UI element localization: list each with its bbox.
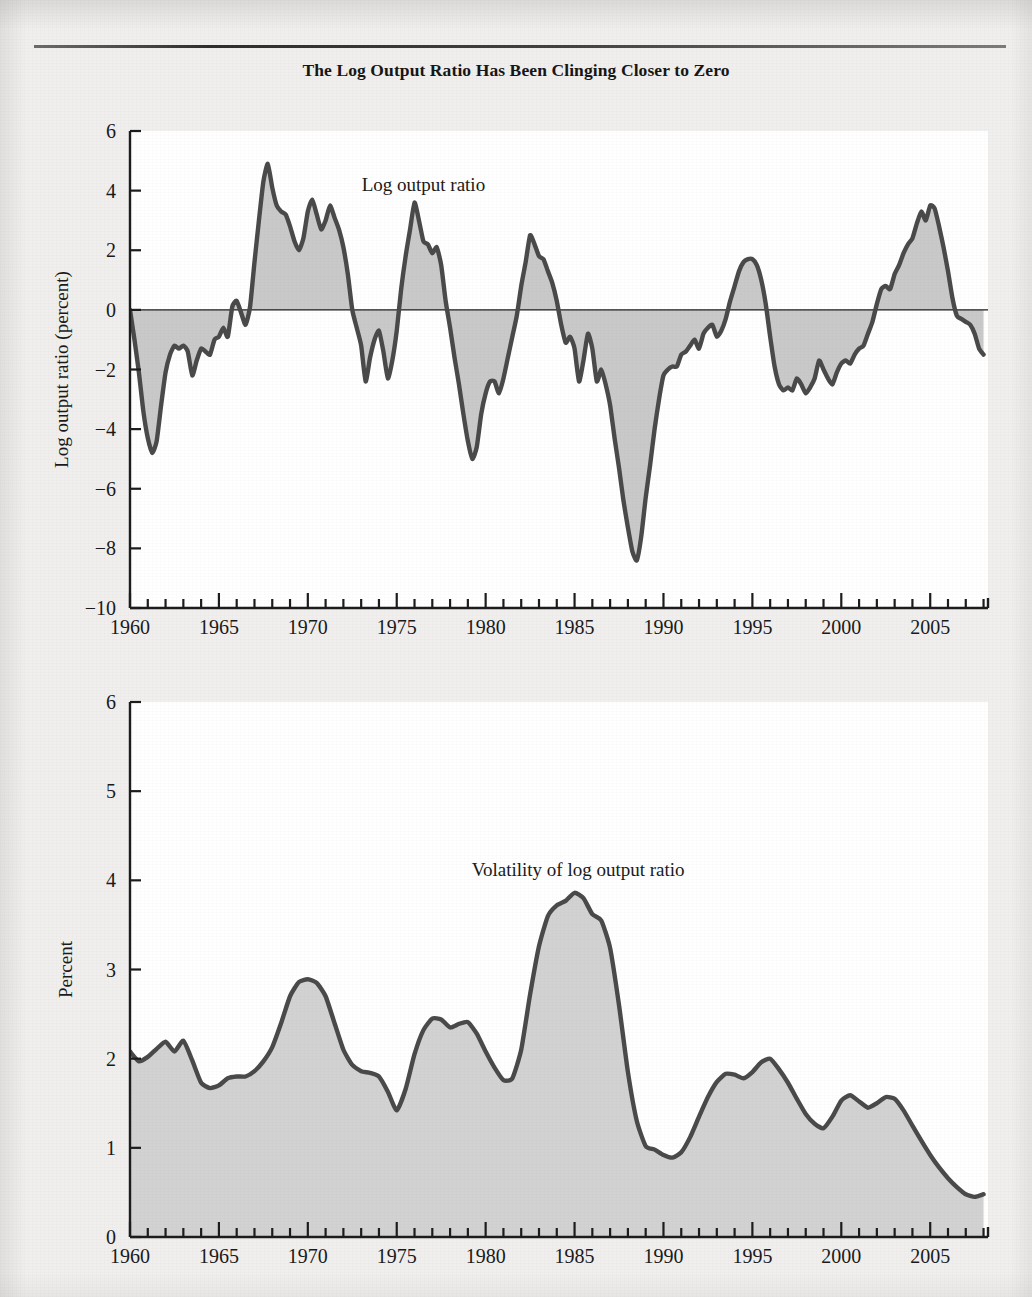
x-axis-tick-label: 2000	[821, 1245, 861, 1267]
y-axis-tick-label: 2	[106, 239, 116, 261]
x-axis-tick-label: 1960	[110, 616, 150, 638]
x-axis-tick-label: 1980	[466, 616, 506, 638]
header-rule	[34, 45, 1006, 48]
log-output-ratio-chart: −10−8−6−4−202461960196519701975198019851…	[0, 95, 1032, 640]
y-axis-tick-label: −2	[95, 359, 116, 381]
x-axis-tick-label: 1990	[643, 616, 683, 638]
x-axis-tick-label: 1965	[199, 1245, 239, 1267]
y-axis-tick-label: 6	[106, 120, 116, 142]
x-axis-tick-label: 1995	[732, 1245, 772, 1267]
y-axis-tick-label: 3	[106, 959, 116, 981]
x-axis-tick-label: 1975	[377, 1245, 417, 1267]
series-annotation-label: Log output ratio	[362, 174, 485, 195]
y-axis-tick-label: 6	[106, 691, 116, 713]
x-axis-tick-label: 1970	[288, 616, 328, 638]
x-axis-tick-label: 1975	[377, 616, 417, 638]
y-axis-tick-label: 4	[106, 869, 116, 891]
x-axis-tick-label: 2005	[910, 1245, 950, 1267]
page-title: The Log Output Ratio Has Been Clinging C…	[0, 60, 1032, 81]
y-axis-tick-label: 1	[106, 1137, 116, 1159]
y-axis-tick-label: 0	[106, 299, 116, 321]
x-axis-tick-label: 1985	[555, 1245, 595, 1267]
y-axis-tick-label: −4	[95, 418, 116, 440]
x-axis-tick-label: 1990	[643, 1245, 683, 1267]
y-axis-tick-label: −6	[95, 478, 116, 500]
volatility-chart: 0123456196019651970197519801985199019952…	[0, 668, 1032, 1288]
y-axis-title: Percent	[55, 940, 76, 998]
x-axis-tick-label: 1995	[732, 616, 772, 638]
y-axis-tick-label: −8	[95, 537, 116, 559]
x-axis-tick-label: 2000	[821, 616, 861, 638]
x-axis-tick-label: 1965	[199, 616, 239, 638]
x-axis-tick-label: 1980	[466, 1245, 506, 1267]
y-axis-tick-label: 2	[106, 1048, 116, 1070]
x-axis-tick-label: 2005	[910, 616, 950, 638]
y-axis-tick-label: 5	[106, 780, 116, 802]
x-axis-tick-label: 1960	[110, 1245, 150, 1267]
x-axis-tick-label: 1985	[555, 616, 595, 638]
y-axis-title: Log output ratio (percent)	[51, 271, 73, 468]
y-axis-tick-label: 4	[106, 180, 116, 202]
chart-panel-log-output-ratio: −10−8−6−4−202461960196519701975198019851…	[0, 95, 1032, 640]
chart-panel-volatility: 0123456196019651970197519801985199019952…	[0, 668, 1032, 1288]
x-axis-tick-label: 1970	[288, 1245, 328, 1267]
series-annotation-label: Volatility of log output ratio	[472, 859, 685, 880]
